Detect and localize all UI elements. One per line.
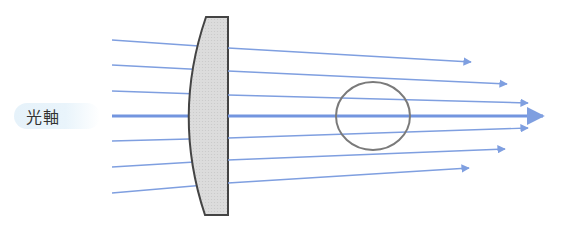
ray-refracted <box>228 168 469 183</box>
refracted-rays <box>228 48 543 183</box>
ray-refracted <box>228 149 505 160</box>
ray-refracted <box>228 128 528 138</box>
ray-refracted <box>228 48 471 62</box>
optics-diagram: 光軸 <box>0 0 575 232</box>
ray-refracted <box>228 95 528 103</box>
optical-axis-text: 光軸 <box>26 104 60 128</box>
optical-axis-label: 光軸 <box>14 103 100 129</box>
